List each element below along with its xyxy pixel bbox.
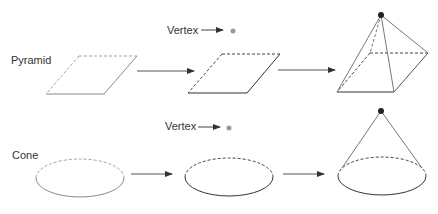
cone-row: Cone Vertex	[12, 108, 426, 197]
vertex-label-cone: Vertex	[165, 120, 197, 132]
vertex-point-icon	[227, 126, 232, 131]
cone-base-step2	[185, 158, 273, 196]
pyramid-cone-construction-diagram: Pyramid Vertex	[0, 0, 438, 214]
pyramid-base-step2	[188, 54, 280, 93]
pyramid-shape	[337, 12, 428, 92]
vertex-label-pyramid: Vertex	[167, 24, 199, 36]
vertex-point-icon	[231, 29, 236, 34]
apex-point-icon	[378, 12, 384, 18]
row-label-cone: Cone	[12, 149, 38, 161]
cone-base-step1	[36, 159, 124, 197]
pyramid-base-step1	[46, 56, 137, 94]
cone-shape	[338, 108, 426, 195]
pyramid-row: Pyramid Vertex	[11, 12, 428, 94]
apex-point-icon	[378, 108, 384, 114]
row-label-pyramid: Pyramid	[11, 54, 51, 66]
